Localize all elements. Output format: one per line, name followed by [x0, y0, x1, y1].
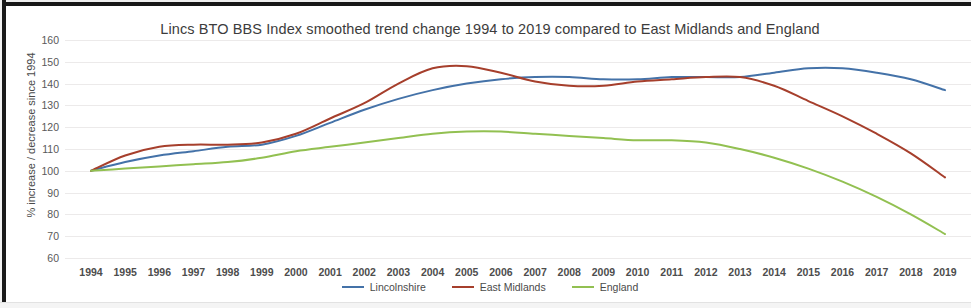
x-tick-label: 2016	[831, 266, 854, 278]
x-tick-label: 2011	[660, 266, 683, 278]
legend-swatch-icon	[342, 286, 364, 288]
x-tick-label: 2005	[455, 266, 478, 278]
y-axis-title: % increase / decrease since 1994	[25, 45, 37, 225]
chart-container: Lincs BTO BBS Index smoothed trend chang…	[9, 9, 971, 303]
legend-label: East Midlands	[480, 281, 546, 293]
scan-border-top	[6, 0, 971, 9]
chart-screenshot: Lincs BTO BBS Index smoothed trend chang…	[0, 0, 971, 308]
x-tick-label: 2009	[592, 266, 615, 278]
legend-item[interactable]: England	[572, 281, 639, 293]
gridline	[65, 258, 971, 259]
x-tick-label: 2007	[523, 266, 546, 278]
legend-item[interactable]: East Midlands	[452, 281, 546, 293]
series-line-england	[91, 131, 945, 234]
chart-title: Lincs BTO BBS Index smoothed trend chang…	[9, 21, 971, 37]
x-tick-label: 1999	[250, 266, 273, 278]
y-tick-label: 110	[42, 143, 59, 155]
x-tick-label: 2019	[933, 266, 956, 278]
x-tick-label: 2010	[626, 266, 649, 278]
y-tick-label: 160	[41, 34, 59, 46]
series-line-east-midlands	[91, 66, 945, 178]
x-tick-label: 2004	[421, 266, 444, 278]
x-tick-label: 1994	[79, 266, 102, 278]
series-line-lincolnshire	[91, 68, 945, 171]
y-tick-label: 120	[41, 121, 59, 133]
x-tick-label: 2001	[318, 266, 341, 278]
legend-item[interactable]: Lincolnshire	[342, 281, 426, 293]
x-tick-label: 1998	[216, 266, 239, 278]
y-tick-label: 100	[41, 165, 59, 177]
y-tick-label: 90	[47, 187, 59, 199]
y-tick-label: 70	[47, 230, 59, 242]
legend-swatch-icon	[572, 286, 594, 288]
x-tick-label: 2018	[899, 266, 922, 278]
legend-label: Lincolnshire	[370, 281, 426, 293]
legend-swatch-icon	[452, 286, 474, 288]
x-tick-label: 2012	[694, 266, 717, 278]
x-tick-label: 2002	[353, 266, 376, 278]
y-tick-label: 130	[41, 99, 59, 111]
series-lines	[65, 40, 971, 258]
legend-label: England	[600, 281, 639, 293]
y-tick-label: 140	[41, 78, 59, 90]
chart-legend: LincolnshireEast MidlandsEngland	[9, 281, 971, 293]
x-tick-label: 2003	[387, 266, 410, 278]
x-tick-label: 1997	[182, 266, 205, 278]
y-tick-label: 150	[41, 56, 59, 68]
y-tick-label: 80	[47, 208, 59, 220]
x-tick-label: 2017	[865, 266, 888, 278]
x-tick-label: 2006	[489, 266, 512, 278]
x-tick-label: 2015	[797, 266, 820, 278]
plot-area: 16015014013012011010090807060 1994199519…	[65, 40, 971, 258]
x-tick-label: 1995	[113, 266, 136, 278]
x-tick-label: 2014	[763, 266, 786, 278]
x-tick-label: 1996	[148, 266, 171, 278]
x-tick-label: 2008	[558, 266, 581, 278]
y-tick-label: 60	[47, 252, 59, 264]
scan-border-left	[0, 0, 9, 308]
x-tick-label: 2013	[728, 266, 751, 278]
x-tick-label: 2000	[284, 266, 307, 278]
